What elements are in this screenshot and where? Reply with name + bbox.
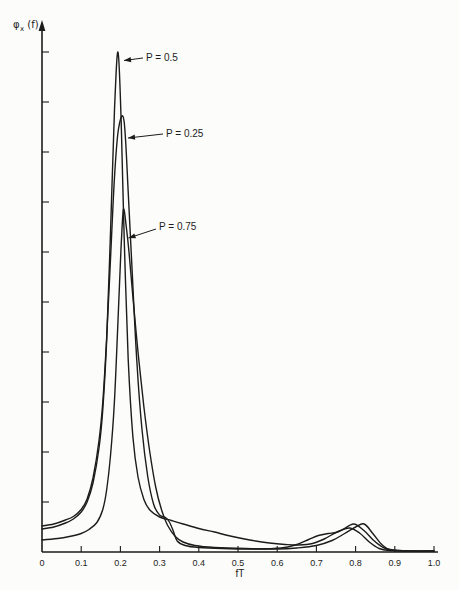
x-tick-label: 0.9 xyxy=(389,558,402,568)
psd-curve-1 xyxy=(42,116,434,551)
x-tick-label: 0 xyxy=(39,558,44,568)
axes: 00.10.20.30.40.50.60.70.80.91.0 xyxy=(39,20,441,568)
curve-annotations: P = 0.5P = 0.25P = 0.75 xyxy=(124,52,204,239)
psd-curve-2 xyxy=(42,209,434,551)
x-tick-label: 0.6 xyxy=(271,558,284,568)
y-axis-arrow-icon xyxy=(39,20,46,31)
annotation-label-0: P = 0.5 xyxy=(146,52,178,63)
psd-curves xyxy=(42,52,434,551)
x-tick-label: 0.4 xyxy=(193,558,206,568)
annotation-label-2: P = 0.75 xyxy=(159,221,197,232)
x-tick-label: 0.5 xyxy=(232,558,245,568)
y-axis-label: φx(f) xyxy=(13,19,39,33)
psd-curve-0 xyxy=(42,52,434,551)
x-tick-label: 0.8 xyxy=(349,558,362,568)
x-tick-label: 0.2 xyxy=(114,558,127,568)
x-tick-label: 0.1 xyxy=(75,558,88,568)
x-axis-label: fT xyxy=(236,568,245,579)
psd-chart: 00.10.20.30.40.50.60.70.80.91.0 P = 0.5P… xyxy=(0,0,459,590)
x-tick-label: 0.3 xyxy=(153,558,166,568)
psd-figure: 00.10.20.30.40.50.60.70.80.91.0 P = 0.5P… xyxy=(0,0,459,590)
annotation-arrow-icon xyxy=(124,57,131,62)
annotation-arrow-icon xyxy=(128,135,135,140)
annotation-label-1: P = 0.25 xyxy=(166,128,204,139)
x-tick-label: 1.0 xyxy=(428,558,441,568)
x-tick-label: 0.7 xyxy=(310,558,323,568)
